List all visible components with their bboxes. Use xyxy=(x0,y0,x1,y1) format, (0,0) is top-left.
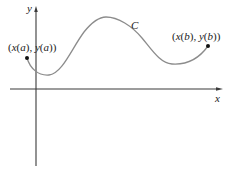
start-param-a: a xyxy=(20,41,26,53)
y-axis-arrow-icon xyxy=(34,6,38,12)
end-param-b-2: b xyxy=(207,30,213,42)
x-axis xyxy=(10,87,223,91)
end-point-label: (x(b), y(b)) xyxy=(172,31,220,42)
start-point-marker xyxy=(25,56,29,60)
parametric-curve-diagram: y x C (x(a), y(a)) (x(b), y(b)) xyxy=(0,0,234,177)
curve-label: C xyxy=(131,20,138,31)
start-y-symbol: y xyxy=(35,41,40,53)
start-param-a-2: a xyxy=(43,41,49,53)
y-axis-label: y xyxy=(27,3,32,14)
x-axis-label: x xyxy=(215,93,220,104)
diagram-canvas xyxy=(0,0,234,177)
end-y-symbol: y xyxy=(199,30,204,42)
end-param-b: b xyxy=(184,30,190,42)
start-x-symbol: x xyxy=(12,41,17,53)
end-point-marker xyxy=(206,44,210,48)
start-point-label: (x(a), y(a)) xyxy=(8,42,56,53)
end-x-symbol: x xyxy=(176,30,181,42)
x-axis-arrow-icon xyxy=(216,87,223,91)
y-axis xyxy=(34,6,38,166)
